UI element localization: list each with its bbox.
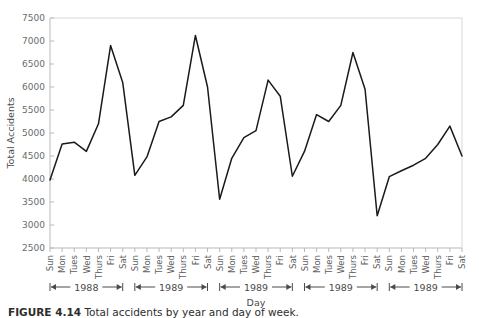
- x-tick-label: Mon: [227, 255, 237, 273]
- x-tick-label: Thurs: [263, 254, 273, 279]
- group-bracket-label: 1989: [244, 282, 268, 293]
- x-tick-label: Wed: [82, 255, 92, 274]
- x-tick-label: Fri: [360, 255, 370, 265]
- caption-text: Total accidents by year and day of week.: [84, 306, 299, 318]
- x-tick-label: Sun: [215, 255, 225, 271]
- x-tick-label: Wed: [251, 255, 261, 274]
- x-tick-label: Thurs: [178, 254, 188, 279]
- y-tick-label: 2500: [22, 243, 45, 253]
- x-tick-label: Sun: [130, 255, 140, 271]
- x-tick-label: Sat: [203, 254, 213, 269]
- x-tick-label: Wed: [336, 255, 346, 274]
- bracket-arrow-right: [202, 284, 207, 290]
- bracket-arrow-left: [221, 284, 226, 290]
- bracket-arrow-right: [371, 284, 376, 290]
- x-tick-label: Sun: [45, 255, 55, 271]
- y-tick-label: 7000: [22, 36, 45, 46]
- y-tick-label: 4500: [22, 151, 45, 161]
- x-tick-label: Wed: [166, 255, 176, 274]
- x-tick-label: Fri: [106, 255, 116, 265]
- figure-container: 2500300035004000450050005500600065007000…: [0, 0, 479, 318]
- bracket-arrow-left: [305, 284, 310, 290]
- x-tick-label: Mon: [142, 255, 152, 273]
- y-axis-title: Total Accidents: [5, 97, 16, 169]
- x-tick-label: Sat: [118, 254, 128, 269]
- x-tick-label: Fri: [275, 255, 285, 265]
- bracket-arrow-right: [456, 284, 461, 290]
- x-tick-label: Sat: [457, 254, 467, 269]
- x-tick-label: Sun: [300, 255, 310, 271]
- caption-label: FIGURE 4.14: [8, 306, 81, 318]
- x-tick-label: Tues: [69, 254, 79, 275]
- x-tick-label: Tues: [154, 254, 164, 275]
- x-tick-label: Sat: [288, 254, 298, 269]
- group-bracket-label: 1989: [414, 282, 438, 293]
- x-tick-label: Thurs: [94, 254, 104, 279]
- y-tick-label: 3500: [22, 197, 45, 207]
- y-tick-label: 3000: [22, 220, 45, 230]
- bracket-arrow-left: [51, 284, 56, 290]
- x-tick-label: Tues: [409, 254, 419, 275]
- accidents-line-chart: 2500300035004000450050005500600065007000…: [0, 0, 479, 318]
- bracket-arrow-right: [286, 284, 291, 290]
- x-tick-label: Thurs: [348, 254, 358, 279]
- data-series-line: [50, 35, 462, 215]
- figure-caption: FIGURE 4.14 Total accidents by year and …: [8, 306, 478, 318]
- y-tick-label: 6500: [22, 59, 45, 69]
- x-tick-label: Thurs: [433, 254, 443, 279]
- x-tick-label: Tues: [239, 254, 249, 275]
- bracket-arrow-left: [136, 284, 141, 290]
- x-tick-label: Sat: [372, 254, 382, 269]
- x-tick-label: Tues: [324, 254, 334, 275]
- group-bracket-label: 1988: [74, 282, 98, 293]
- y-tick-label: 4000: [22, 174, 45, 184]
- y-tick-label: 5000: [22, 128, 45, 138]
- x-tick-label: Sun: [384, 255, 394, 271]
- y-tick-label: 6000: [22, 82, 45, 92]
- group-bracket-label: 1989: [159, 282, 183, 293]
- bracket-arrow-left: [390, 284, 395, 290]
- y-tick-label: 7500: [22, 13, 45, 23]
- bracket-arrow-right: [117, 284, 122, 290]
- x-tick-label: Mon: [57, 255, 67, 273]
- x-tick-label: Fri: [191, 255, 201, 265]
- x-tick-label: Mon: [312, 255, 322, 273]
- group-bracket-label: 1989: [329, 282, 353, 293]
- x-tick-label: Wed: [421, 255, 431, 274]
- y-tick-label: 5500: [22, 105, 45, 115]
- x-tick-label: Fri: [445, 255, 455, 265]
- x-tick-label: Mon: [397, 255, 407, 273]
